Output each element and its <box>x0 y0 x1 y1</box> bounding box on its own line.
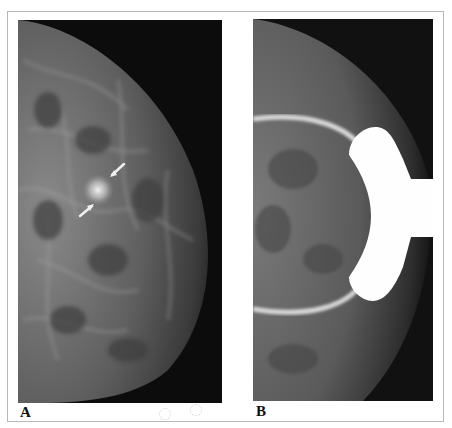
scan-artifact-mark <box>159 408 171 420</box>
panel-label-b: B <box>256 404 266 419</box>
panel-b-image <box>253 19 433 401</box>
mammogram-b-graphic <box>253 19 433 401</box>
mammogram-a-graphic <box>18 20 222 403</box>
panel-label-a: A <box>20 405 31 420</box>
scan-artifact-mark <box>190 404 202 416</box>
panel-a-image <box>18 20 222 403</box>
